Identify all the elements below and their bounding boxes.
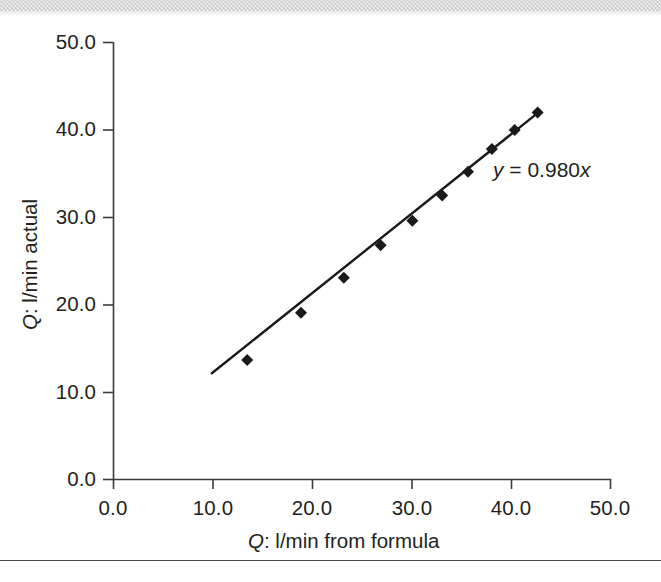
y-axis-title: Q: l/min actual [18, 199, 42, 330]
bottom-divider-rule [0, 560, 661, 561]
y-tick-label-0: 0.0 [24, 467, 96, 491]
equation-y-symbol: y [493, 158, 504, 181]
x-tick-label-50: 50.0 [570, 496, 650, 520]
plot-canvas [0, 0, 661, 560]
x-axis-title-rest: : l/min from formula [264, 529, 439, 552]
x-tick-label-0: 0.0 [73, 496, 153, 520]
equation-x-symbol: x [580, 158, 591, 181]
data-point [462, 166, 474, 178]
data-point [338, 272, 350, 284]
y-tick-label-40: 40.0 [24, 117, 96, 141]
fit-line [212, 113, 538, 373]
chart-figure: 50.0 40.0 30.0 20.0 10.0 0.0 0.0 10.0 20… [0, 0, 661, 560]
regression-equation-annotation: y = 0.980x [493, 158, 590, 182]
x-axis-title-symbol: Q [248, 529, 264, 552]
x-tick-label-30: 30.0 [372, 496, 452, 520]
x-tick-label-20: 20.0 [272, 496, 352, 520]
y-tick-label-10: 10.0 [24, 380, 96, 404]
x-tick-label-40: 40.0 [471, 496, 551, 520]
y-axis-title-symbol: Q [18, 314, 41, 330]
x-axis-ticks [114, 479, 611, 489]
y-axis-title-rest: : l/min actual [18, 199, 41, 314]
data-point [241, 354, 253, 366]
equation-value: = 0.980 [504, 158, 580, 181]
x-axis-title: Q: l/min from formula [248, 529, 439, 553]
y-axis-ticks [103, 43, 113, 480]
x-tick-label-10: 10.0 [173, 496, 253, 520]
data-point [295, 307, 307, 319]
y-tick-label-50: 50.0 [24, 30, 96, 54]
